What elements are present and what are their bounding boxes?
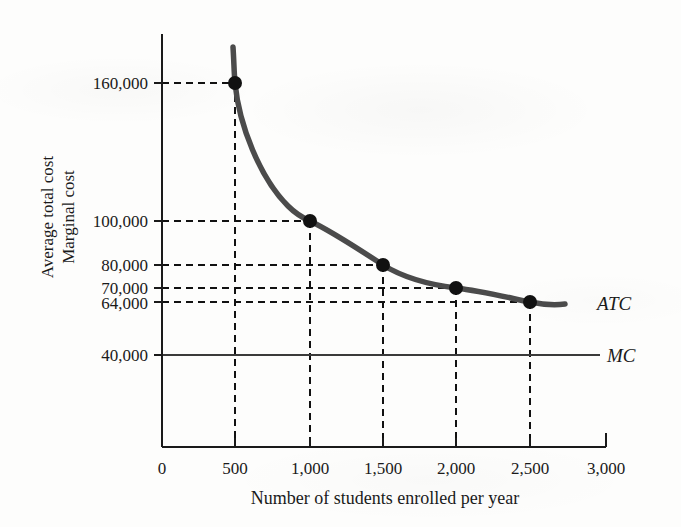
data-point-500-160000: [228, 76, 242, 90]
data-point-1500-80000: [376, 258, 390, 272]
x-tick-label-500: 500: [210, 460, 260, 477]
data-point-1000-100000: [303, 214, 317, 228]
data-point-2000-70000: [449, 281, 463, 295]
x-tick-label-1000: 1,000: [280, 460, 340, 477]
y-tick-group: [154, 83, 162, 355]
y-tick-label-40000: 40,000: [58, 347, 148, 364]
x-tick-group: [235, 438, 530, 447]
y-tick-label-160000: 160,000: [58, 75, 148, 92]
x-tick-label-3000: 3,000: [576, 460, 636, 477]
atc-curve-label: ATC: [597, 293, 631, 315]
y-axis-title: Average total cost Marginal cost: [37, 107, 79, 327]
x-tick-label-2500: 2,500: [500, 460, 560, 477]
mc-curve-label: MC: [607, 345, 636, 367]
data-point-2500-64000: [523, 295, 537, 309]
cost-curve-figure: 160,000 100,000 80,000 70,000 64,000 40,…: [0, 0, 681, 527]
x-tick-label-2000: 2,000: [426, 460, 486, 477]
y-axis-title-line-2: Marginal cost: [58, 107, 79, 327]
x-tick-label-0: 0: [137, 460, 187, 477]
x-axis-title: Number of students enrolled per year: [160, 488, 610, 509]
y-axis-title-line-1: Average total cost: [37, 107, 58, 327]
dropline-group: [162, 83, 530, 447]
x-tick-label-1500: 1,500: [353, 460, 413, 477]
